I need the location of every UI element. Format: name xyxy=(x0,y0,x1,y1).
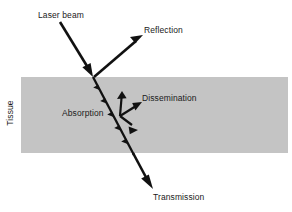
reflection-arrow xyxy=(94,35,143,77)
laser-tissue-diagram: Laser beam Reflection Dissemination Abso… xyxy=(0,0,292,212)
incident-laser-beam-arrow xyxy=(60,22,93,77)
absorption-label: Absorption xyxy=(62,108,104,118)
dissemination-label: Dissemination xyxy=(142,93,197,103)
transmission-label: Transmission xyxy=(153,192,204,202)
transmission-arrow xyxy=(133,153,153,189)
tissue-label: Tissue xyxy=(5,96,15,130)
laser-beam-label: Laser beam xyxy=(38,10,84,20)
reflection-label: Reflection xyxy=(144,25,183,35)
